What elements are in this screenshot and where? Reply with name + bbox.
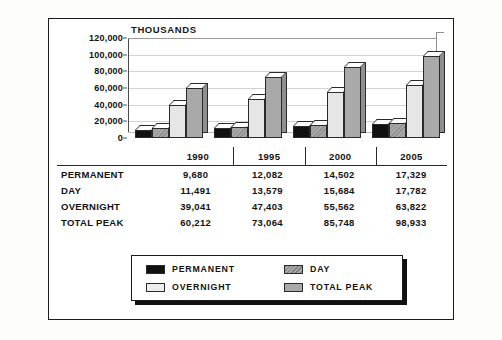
bar	[248, 99, 265, 139]
legend-item: OVERNIGHT	[146, 282, 232, 292]
table-year-label: 2005	[376, 151, 447, 162]
legend-swatch-total	[284, 283, 303, 292]
bar-front-face	[214, 128, 231, 138]
table-cell: 85,748	[303, 214, 375, 230]
bar-front-face	[152, 128, 169, 138]
y-axis-tick-mark	[123, 121, 127, 122]
table-year-label: 1990	[162, 151, 233, 162]
y-axis-tick-label: 20,000	[94, 116, 123, 126]
bar-front-face	[310, 125, 327, 138]
table-cell: 73,064	[232, 214, 304, 230]
chart-page: THOUSANDS 120,000100,00080,00060,00040,0…	[0, 0, 502, 340]
y-axis: 120,000100,00080,00060,00040,00020,0000	[49, 38, 127, 138]
bar-group	[214, 38, 283, 138]
bar-groups	[128, 38, 444, 138]
bar	[186, 88, 203, 138]
table-row-label: PERMANENT	[57, 166, 160, 182]
bar	[169, 105, 186, 138]
table-cell: 11,491	[160, 182, 232, 198]
table-year-header: 1990199520002005	[57, 147, 447, 166]
bar-side-face	[440, 51, 445, 133]
bar	[152, 128, 169, 138]
table-column-divider	[376, 147, 377, 166]
bar-front-face	[248, 99, 265, 139]
table-year-label: 1995	[233, 151, 304, 162]
table-cell: 9,680	[160, 166, 232, 182]
y-axis-tick-mark	[123, 88, 127, 89]
bar-group	[293, 38, 362, 138]
y-axis-tick-label: 60,000	[94, 83, 123, 93]
table-column-divider	[305, 147, 306, 166]
bar	[344, 67, 361, 138]
bar	[423, 56, 440, 138]
legend-label: TOTAL PEAK	[310, 282, 373, 292]
legend-item: PERMANENT	[146, 264, 235, 274]
bar-front-face	[372, 124, 389, 138]
table-row-label: TOTAL PEAK	[57, 214, 160, 230]
bar-front-face	[231, 127, 248, 138]
table-cell: 47,403	[232, 198, 304, 214]
table-cell: 14,502	[303, 166, 375, 182]
y-axis-tick-mark	[123, 54, 127, 55]
bar	[293, 126, 310, 138]
bar	[135, 130, 152, 138]
y-axis-tick-label: 80,000	[94, 66, 123, 76]
bar	[265, 77, 282, 138]
bar-front-face	[389, 123, 406, 138]
legend-swatch-day	[284, 265, 303, 274]
bar	[406, 85, 423, 138]
table-cell: 55,562	[303, 198, 375, 214]
table-cell: 15,684	[303, 182, 375, 198]
chart-unit-label: THOUSANDS	[131, 24, 197, 35]
y-axis-tick-label: 40,000	[94, 100, 123, 110]
y-axis-tick-mark	[123, 38, 127, 39]
table-year-label: 2000	[305, 151, 376, 162]
table-row-label: OVERNIGHT	[57, 198, 160, 214]
bar-front-face	[423, 56, 440, 138]
bar	[310, 125, 327, 138]
bar-front-face	[406, 85, 423, 138]
bar	[372, 124, 389, 138]
table-cell: 98,933	[375, 214, 447, 230]
y-axis-tick-mark	[123, 138, 127, 139]
legend-item: TOTAL PEAK	[284, 282, 373, 292]
legend-swatch-permanent	[146, 265, 165, 274]
table-row-label: DAY	[57, 182, 160, 198]
table-cell: 17,329	[375, 166, 447, 182]
table-cell: 39,041	[160, 198, 232, 214]
bar-front-face	[293, 126, 310, 138]
bar-front-face	[265, 77, 282, 138]
table-cell: 60,212	[160, 214, 232, 230]
table-row: OVERNIGHT39,04147,40355,56263,822	[57, 198, 447, 214]
data-table: PERMANENT9,68012,08214,50217,329DAY11,49…	[57, 166, 447, 236]
legend-swatch-overnight	[146, 283, 165, 292]
legend-label: PERMANENT	[172, 264, 235, 274]
bar-group	[135, 38, 204, 138]
table-row: DAY11,49113,57915,68417,782	[57, 182, 447, 198]
y-axis-tick-label: 120,000	[89, 33, 123, 43]
legend-label: OVERNIGHT	[172, 282, 232, 292]
bar-side-face	[282, 72, 287, 133]
bar-front-face	[135, 130, 152, 138]
bar-group	[372, 38, 441, 138]
bar-front-face	[327, 92, 344, 138]
table-cell: 17,782	[375, 182, 447, 198]
y-axis-tick-mark	[123, 71, 127, 72]
bar	[389, 123, 406, 138]
bar-front-face	[344, 67, 361, 138]
legend-label: DAY	[310, 264, 330, 274]
bar-chart: THOUSANDS 120,000100,00080,00060,00040,0…	[49, 19, 455, 155]
bar-side-face	[361, 62, 366, 133]
y-axis-tick-label: 100,000	[89, 50, 123, 60]
y-axis-tick-mark	[123, 104, 127, 105]
legend-item: DAY	[284, 264, 330, 274]
table-cell: 63,822	[375, 198, 447, 214]
bar	[214, 128, 231, 138]
table-row: TOTAL PEAK60,21273,06485,74898,933	[57, 214, 447, 230]
table-cell: 12,082	[232, 166, 304, 182]
bar	[231, 127, 248, 138]
bar	[327, 92, 344, 138]
bar-front-face	[169, 105, 186, 138]
bar-side-face	[203, 83, 208, 133]
table-row: PERMANENT9,68012,08214,50217,329	[57, 166, 447, 182]
